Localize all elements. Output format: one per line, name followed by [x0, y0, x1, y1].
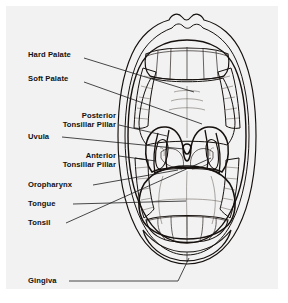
label-soft-palate: Soft Palate — [28, 74, 68, 83]
label-tongue: Tongue — [28, 199, 55, 208]
label-posterior-tonsillar-pillar-line2: Tonsillar Pillar — [63, 120, 116, 129]
figure-root: Hard Palate Soft Palate Posterior Tonsil… — [0, 0, 288, 303]
hard-palate-area — [139, 78, 235, 145]
leader-tongue — [73, 201, 186, 204]
label-uvula: Uvula — [28, 132, 50, 141]
label-gingiva: Gingiva — [28, 276, 57, 285]
upper-teeth — [145, 47, 229, 80]
leader-anterior-tonsillar-pillar — [119, 156, 156, 161]
label-anterior-tonsillar-pillar-line2: Tonsillar Pillar — [63, 160, 116, 169]
leader-uvula — [62, 137, 184, 149]
label-posterior-tonsillar-pillar-line1: Posterior — [82, 111, 116, 120]
labels: Hard Palate Soft Palate Posterior Tonsil… — [28, 50, 116, 285]
leader-lines — [62, 58, 211, 281]
label-tonsil: Tonsil — [28, 218, 50, 227]
oral-cavity-illustration: Hard Palate Soft Palate Posterior Tonsil… — [6, 6, 278, 289]
label-oropharynx: Oropharynx — [28, 180, 73, 189]
label-hard-palate: Hard Palate — [28, 50, 71, 59]
lower-teeth — [146, 215, 228, 243]
lower-right-side-teeth — [220, 158, 239, 218]
leader-hard-palate — [84, 58, 194, 92]
figure-panel: Hard Palate Soft Palate Posterior Tonsil… — [6, 6, 278, 289]
label-anterior-tonsillar-pillar-line1: Anterior — [86, 151, 116, 160]
